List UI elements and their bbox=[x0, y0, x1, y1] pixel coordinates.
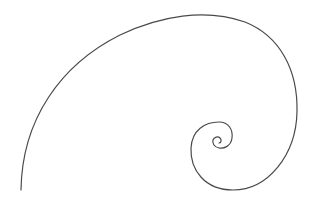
spiral-diagram bbox=[0, 0, 312, 203]
spiral-svg bbox=[0, 0, 312, 203]
golden-spiral-curve bbox=[21, 15, 297, 190]
